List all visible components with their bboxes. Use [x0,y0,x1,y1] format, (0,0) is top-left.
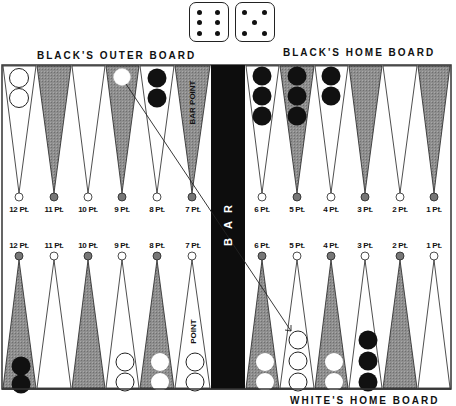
bottom-point-label: 3 Pt. [348,241,382,250]
top-point-label: 1 Pt. [417,205,451,214]
bottom-point-label: 12 Pt. [2,241,36,250]
top-point-label: 8 Pt. [140,205,174,214]
top-point-label: 6 Pt. [245,205,279,214]
top-point-label: 9 Pt. [105,205,139,214]
bottom-point-label: 4 Pt. [314,241,348,250]
point-label: POINT [189,317,198,347]
top-point-label: 2 Pt. [383,205,417,214]
top-point-label: 10 Pt. [71,205,105,214]
bottom-point-label: 5 Pt. [280,241,314,250]
bottom-point-label: 8 Pt. [140,241,174,250]
top-point-label: 3 Pt. [348,205,382,214]
bottom-point-label: 7 Pt. [176,241,210,250]
bar-point-label: BAR POINT [188,79,197,127]
top-point-label: 11 Pt. [37,205,71,214]
bottom-point-label: 6 Pt. [245,241,279,250]
top-point-label: 5 Pt. [280,205,314,214]
bottom-point-label: 9 Pt. [105,241,139,250]
bottom-point-label: 2 Pt. [383,241,417,250]
bottom-point-label: 11 Pt. [37,241,71,250]
top-point-label: 12 Pt. [2,205,36,214]
bar-letter-b: B [222,225,234,259]
bottom-point-label: 10 Pt. [71,241,105,250]
bottom-point-label: 1 Pt. [417,241,451,250]
top-point-label: 7 Pt. [176,205,210,214]
top-point-label: 4 Pt. [314,205,348,214]
